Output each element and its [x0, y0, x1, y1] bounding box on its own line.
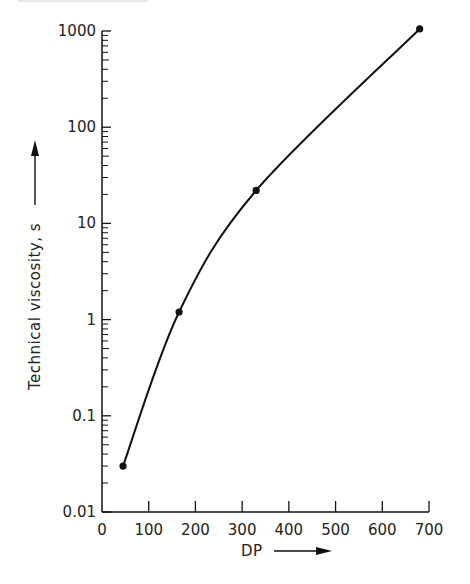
y-axis-label: Technical viscosity, s: [26, 223, 44, 391]
x-tick-label: 200: [181, 521, 210, 539]
x-tick-label: 0: [97, 521, 107, 539]
x-tick-label: 300: [228, 521, 257, 539]
y-tick-label: 0.1: [72, 407, 96, 425]
y-arrowhead-icon: [31, 140, 39, 156]
x-tick-label: 700: [415, 521, 444, 539]
x-axis-ticks: 0100200300400500600700: [97, 501, 443, 539]
x-tick-label: 100: [134, 521, 163, 539]
series-line: [123, 29, 420, 466]
x-axis-label: DP: [241, 542, 263, 560]
x-tick-label: 500: [321, 521, 350, 539]
y-axis-ticks: 0.010.11101001000: [58, 22, 111, 521]
data-points: [119, 25, 423, 469]
y-tick-label: 0.01: [63, 503, 96, 521]
viscosity-chart: 0.010.11101001000 0100200300400500600700…: [0, 0, 470, 584]
data-point-marker: [175, 308, 182, 315]
axes: [102, 31, 429, 512]
x-arrowhead-icon: [316, 547, 332, 555]
x-tick-label: 400: [275, 521, 304, 539]
data-point-marker: [253, 187, 260, 194]
y-tick-label: 1: [86, 311, 96, 329]
y-tick-label: 1000: [58, 22, 96, 40]
data-point-marker: [416, 25, 423, 32]
data-curve: [123, 29, 420, 466]
x-axis-title: DP: [241, 542, 332, 560]
data-point-marker: [119, 463, 126, 470]
y-tick-label: 100: [67, 118, 96, 136]
y-axis-title: Technical viscosity, s: [26, 140, 44, 391]
y-tick-label: 10: [77, 214, 96, 232]
x-tick-label: 600: [368, 521, 397, 539]
